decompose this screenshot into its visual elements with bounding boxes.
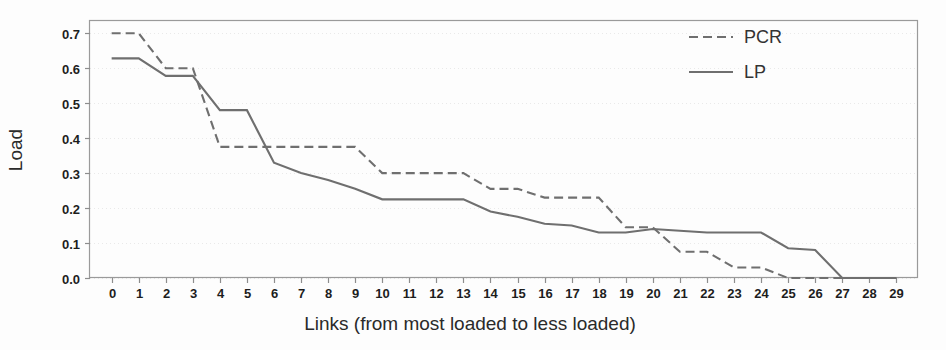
x-tick-label-12: 12 — [429, 286, 443, 301]
load-vs-links-line-chart: 0.00.10.20.30.40.50.60.7 012345678910111… — [0, 0, 946, 350]
x-tick-label-17: 17 — [565, 286, 579, 301]
x-tick-label-18: 18 — [592, 286, 606, 301]
x-tick-label-0: 0 — [109, 286, 116, 301]
x-tick-label-10: 10 — [375, 286, 389, 301]
y-tick-label-0.3: 0.3 — [62, 167, 80, 182]
x-tick-label-24: 24 — [754, 286, 769, 301]
x-tick-label-2: 2 — [163, 286, 170, 301]
x-tick-label-27: 27 — [835, 286, 849, 301]
x-tick-label-7: 7 — [298, 286, 305, 301]
x-tick-label-14: 14 — [483, 286, 498, 301]
x-tick-label-16: 16 — [538, 286, 552, 301]
y-tick-label-0.7: 0.7 — [62, 27, 80, 42]
y-tick-label-0.1: 0.1 — [62, 237, 80, 252]
y-tick-label-0.2: 0.2 — [62, 202, 80, 217]
x-tick-label-13: 13 — [456, 286, 470, 301]
legend-label-lp: LP — [744, 62, 766, 82]
x-tick-label-11: 11 — [403, 286, 417, 301]
chart-figure: 0.00.10.20.30.40.50.60.7 012345678910111… — [0, 0, 946, 350]
x-axis-title: Links (from most loaded to less loaded) — [304, 313, 636, 334]
x-tick-label-20: 20 — [646, 286, 660, 301]
x-tick-label-23: 23 — [727, 286, 741, 301]
x-tick-label-19: 19 — [619, 286, 633, 301]
y-tick-label-0.6: 0.6 — [62, 62, 80, 77]
x-tick-label-8: 8 — [325, 286, 332, 301]
y-tick-label-0.4: 0.4 — [62, 132, 81, 147]
x-tick-label-21: 21 — [673, 286, 687, 301]
x-tick-label-15: 15 — [511, 286, 525, 301]
x-tick-label-5: 5 — [244, 286, 251, 301]
x-tick-label-6: 6 — [271, 286, 278, 301]
y-axis-title: Load — [5, 129, 26, 171]
x-tick-label-26: 26 — [808, 286, 822, 301]
y-tick-label-0.0: 0.0 — [62, 272, 80, 287]
legend-label-pcr: PCR — [744, 27, 782, 47]
x-tick-label-9: 9 — [352, 286, 359, 301]
x-tick-label-3: 3 — [190, 286, 197, 301]
x-tick-label-28: 28 — [862, 286, 876, 301]
x-tick-label-4: 4 — [217, 286, 225, 301]
x-tick-label-1: 1 — [136, 286, 143, 301]
x-tick-label-22: 22 — [700, 286, 714, 301]
x-tick-label-25: 25 — [781, 286, 795, 301]
x-tick-label-29: 29 — [889, 286, 903, 301]
y-tick-label-0.5: 0.5 — [62, 97, 80, 112]
